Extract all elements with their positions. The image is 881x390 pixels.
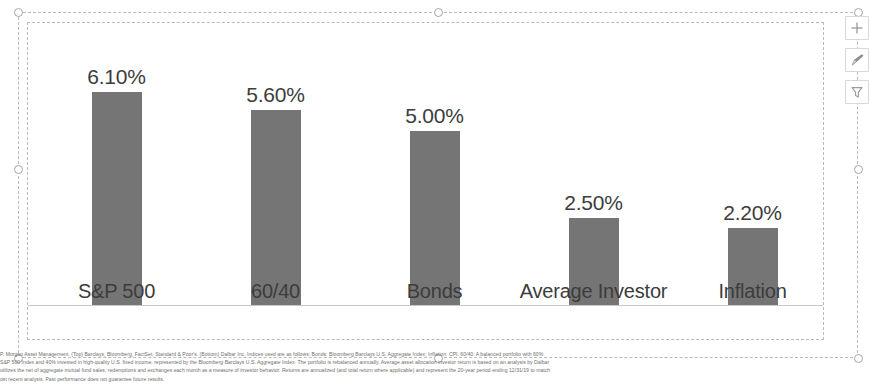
resize-handle-outer-middle-right[interactable]	[854, 165, 863, 174]
bar-column-0: 6.10%	[37, 23, 196, 305]
resize-handle-outer-bottom-right[interactable]	[854, 354, 863, 363]
footnote-line-3: ost recent analysis. Past performance do…	[0, 375, 830, 383]
bar-column-2: 5.00%	[355, 23, 514, 305]
chart-plot-area[interactable]: 6.10% S&P 500 5.60% 60/40 5.00% Bonds 2.…	[28, 23, 823, 339]
bar-group-1[interactable]: 5.60% 60/40	[196, 23, 355, 305]
category-label-1: 60/40	[196, 280, 355, 303]
bar-rect-2[interactable]	[410, 131, 460, 305]
bar-column-4: 2.20%	[673, 23, 832, 305]
bar-column-3: 2.50%	[514, 23, 673, 305]
footnote-block: P. Morgan Asset Management. (Top) Barcla…	[0, 350, 830, 383]
chart-elements-button[interactable]	[845, 16, 869, 40]
category-label-2: Bonds	[355, 280, 514, 303]
chart-filters-button[interactable]	[845, 80, 869, 104]
paintbrush-icon	[850, 53, 865, 68]
chart-quick-buttons	[845, 16, 871, 112]
bar-group-4[interactable]: 2.20% Inflation	[673, 23, 832, 305]
bar-rect-1[interactable]	[251, 110, 301, 305]
bar-group-2[interactable]: 5.00% Bonds	[355, 23, 514, 305]
bar-rect-0[interactable]	[92, 92, 142, 305]
resize-handle-outer-top-center[interactable]	[434, 8, 443, 17]
footnote-line-2: utilizes the net of aggregate mutual fun…	[0, 366, 830, 374]
resize-handle-outer-middle-left[interactable]	[14, 165, 23, 174]
category-label-3: Average Investor	[514, 280, 673, 303]
bar-group-3[interactable]: 2.50% Average Investor	[514, 23, 673, 305]
data-label-3: 2.50%	[564, 191, 623, 215]
data-label-4: 2.20%	[723, 201, 782, 225]
funnel-icon	[850, 85, 864, 99]
footnote-line-1: S&P 500 Index and 40% invested in high-q…	[0, 358, 830, 366]
resize-handle-outer-top-left[interactable]	[14, 8, 23, 17]
bar-group-0[interactable]: 6.10% S&P 500	[37, 23, 196, 305]
category-label-4: Inflation	[673, 280, 832, 303]
category-axis-line	[28, 305, 823, 306]
plus-icon	[850, 21, 864, 35]
data-label-0: 6.10%	[87, 65, 146, 89]
data-label-1: 5.60%	[246, 83, 305, 107]
chart-styles-button[interactable]	[845, 48, 869, 72]
category-label-0: S&P 500	[37, 280, 196, 303]
footnote-line-0: P. Morgan Asset Management. (Top) Barcla…	[0, 350, 830, 358]
data-label-2: 5.00%	[405, 104, 464, 128]
bar-column-1: 5.60%	[196, 23, 355, 305]
